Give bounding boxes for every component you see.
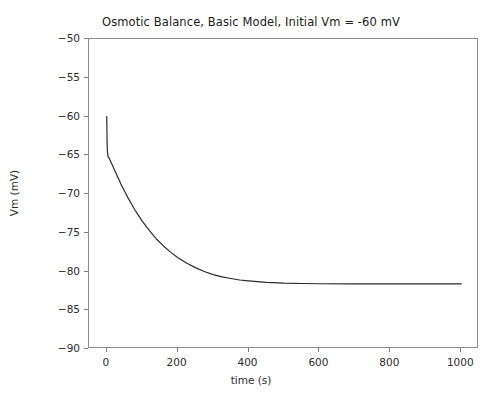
y-tick-label: −60 [38,110,80,122]
y-tick-label: −65 [38,148,80,160]
y-tick-label: −90 [38,342,80,354]
x-tick-label: 0 [102,356,109,368]
y-tick-label: −70 [38,187,80,199]
y-axis-label: Vm (mV) [8,170,20,216]
x-tick-label: 1000 [447,356,474,368]
y-tick-label: −50 [38,32,80,44]
vm-trace-line [107,117,462,284]
x-tick-label: 800 [379,356,399,368]
y-tick-label: −55 [38,71,80,83]
y-tick-label: −80 [38,265,80,277]
figure-canvas: Osmotic Balance, Basic Model, Initial Vm… [0,0,502,403]
y-tick-label: −85 [38,303,80,315]
data-line-svg [89,39,479,349]
y-tick-label: −75 [38,226,80,238]
x-tick-label: 400 [238,356,258,368]
x-tick-label: 200 [167,356,187,368]
x-axis-label: time (s) [0,374,502,386]
y-tick-mark [84,348,88,349]
chart-title: Osmotic Balance, Basic Model, Initial Vm… [0,15,502,29]
plot-area [88,38,478,348]
x-tick-label: 600 [308,356,328,368]
